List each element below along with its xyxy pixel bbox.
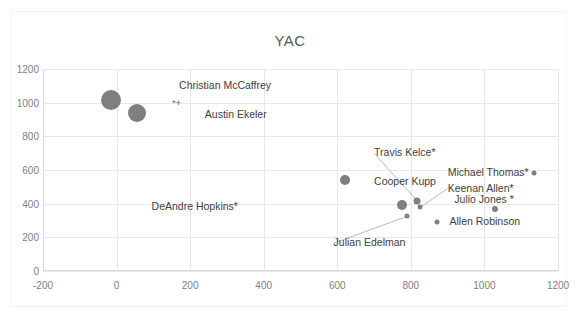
gridline-horizontal bbox=[43, 237, 558, 238]
gridline-vertical bbox=[411, 69, 412, 271]
gridline-horizontal bbox=[43, 136, 558, 137]
scatter-point-label: Julian Edelman bbox=[334, 236, 406, 248]
y-axis-tick-label: 1200 bbox=[17, 64, 39, 75]
x-axis-tick-label: 1000 bbox=[473, 280, 495, 291]
scatter-point[interactable] bbox=[492, 206, 498, 212]
scatter-point-label: Travis Kelce* bbox=[374, 146, 435, 158]
y-axis-tick-label: 0 bbox=[33, 266, 39, 277]
ekeler-star-plus-icon: *+ bbox=[172, 98, 181, 108]
x-axis-tick-label: 800 bbox=[403, 280, 420, 291]
scatter-point-label: Cooper Kupp bbox=[374, 175, 436, 187]
x-axis-tick-label: 200 bbox=[182, 280, 199, 291]
x-axis-tick-label: 0 bbox=[114, 280, 120, 291]
gridline-vertical bbox=[190, 69, 191, 271]
y-axis-tick-label: 800 bbox=[22, 131, 39, 142]
gridline-horizontal bbox=[43, 271, 558, 272]
gridline-vertical bbox=[264, 69, 265, 271]
gridline-horizontal bbox=[43, 69, 558, 70]
scatter-point-label: Keenan Allen* bbox=[448, 182, 514, 194]
scatter-point-label: DeAndre Hopkins* bbox=[152, 200, 238, 212]
scatter-point-label: Julio Jones * bbox=[454, 193, 514, 205]
y-axis-tick-label: 1000 bbox=[17, 97, 39, 108]
y-axis-tick-label: 600 bbox=[22, 165, 39, 176]
chart-title: YAC bbox=[12, 32, 568, 49]
y-axis-tick-label: 400 bbox=[22, 198, 39, 209]
scatter-point-label: Christian McCaffrey bbox=[179, 79, 271, 91]
gridline-vertical bbox=[558, 69, 559, 271]
scatter-point[interactable] bbox=[397, 200, 407, 210]
x-axis-tick-label: 1200 bbox=[547, 280, 569, 291]
scatter-point[interactable] bbox=[340, 175, 350, 185]
x-axis-tick-label: -200 bbox=[33, 280, 53, 291]
scatter-point[interactable] bbox=[414, 198, 421, 205]
scatter-point[interactable] bbox=[101, 90, 121, 110]
scatter-point-label: Michael Thomas* bbox=[448, 166, 529, 178]
scatter-point-label: Austin Ekeler bbox=[205, 108, 267, 120]
y-axis-tick-label: 200 bbox=[22, 232, 39, 243]
scatter-point-label: Allen Robinson bbox=[449, 215, 520, 227]
x-axis-tick-label: 400 bbox=[255, 280, 272, 291]
scatter-point[interactable] bbox=[128, 104, 146, 122]
chart-frame: YAC 020040060080010001200-20002004006008… bbox=[11, 11, 567, 307]
scatter-point[interactable] bbox=[434, 220, 439, 225]
x-axis-tick-label: 600 bbox=[329, 280, 346, 291]
scatter-point[interactable] bbox=[418, 205, 423, 210]
scatter-point[interactable] bbox=[532, 170, 537, 175]
plot-area: 020040060080010001200-200020040060080010… bbox=[43, 69, 558, 271]
scatter-point[interactable] bbox=[405, 214, 410, 219]
